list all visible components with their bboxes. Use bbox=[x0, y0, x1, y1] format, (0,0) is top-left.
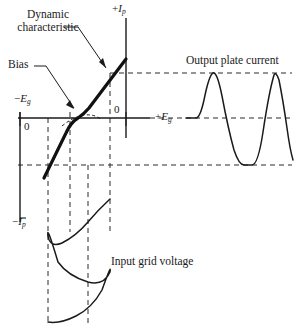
axes bbox=[18, 18, 150, 222]
pos-eg-subscript: g bbox=[168, 115, 172, 124]
dynamic-characteristic-figure: Dynamic characteristic Bias Output plate… bbox=[0, 0, 296, 328]
annotation-leaders bbox=[34, 27, 106, 108]
annotation-arrowheads bbox=[66, 58, 106, 109]
input-grid-voltage-waveform bbox=[48, 199, 111, 322]
x-axis-positive-label: +Eg bbox=[155, 110, 172, 124]
dynamic-characteristic-label-line2: characteristic bbox=[17, 21, 78, 33]
output-plate-current-label: Output plate current bbox=[186, 54, 279, 67]
pos-eg-symbol: E bbox=[161, 110, 168, 122]
dynamic-characteristic-label: Dynamic characteristic bbox=[8, 8, 88, 34]
origin-label-left: 0 bbox=[24, 120, 30, 132]
bias-label: Bias bbox=[8, 58, 28, 71]
dynamic-characteristic-label-line1: Dynamic bbox=[27, 8, 69, 20]
neg-eg-subscript: g bbox=[27, 97, 31, 106]
bias-arrowhead bbox=[66, 100, 74, 109]
y-axis-positive-label: +Ip bbox=[112, 2, 126, 16]
neg-eg-symbol: E bbox=[20, 92, 27, 104]
neg-ip-subscript: p bbox=[22, 220, 26, 229]
pos-ip-subscript: p bbox=[122, 7, 126, 16]
origin-label-right: 0 bbox=[114, 103, 120, 115]
input-grid-voltage-label: Input grid voltage bbox=[111, 255, 193, 268]
y-axis-negative-label: −Ip bbox=[12, 215, 26, 229]
x-axis-negative-label: −Eg bbox=[14, 92, 31, 106]
output-plate-current-waveform bbox=[186, 73, 293, 165]
bias-leader bbox=[34, 66, 74, 108]
figure-canvas bbox=[0, 0, 296, 328]
